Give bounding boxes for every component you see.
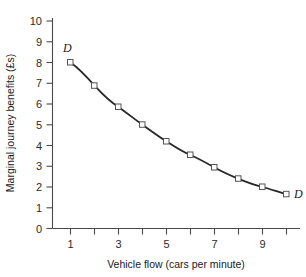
x-tick-label-1: 1: [67, 238, 73, 250]
chart-container: 10 9 8 7 6 5 4 3 2 1 0 1 3 5 7 9 Vehic: [0, 0, 306, 277]
x-tick-label-5: 5: [163, 238, 169, 250]
y-tick-label-0: 0: [36, 223, 42, 235]
y-tick-label-7: 7: [36, 77, 42, 89]
data-point-7: [212, 165, 218, 171]
y-tick-label-5: 5: [36, 119, 42, 131]
chart-background: [0, 0, 306, 277]
data-point-2: [92, 83, 98, 89]
data-point-1: [68, 60, 74, 66]
demand-curve-chart: 10 9 8 7 6 5 4 3 2 1 0 1 3 5 7 9 Vehic: [0, 0, 306, 277]
data-point-6: [188, 152, 194, 158]
y-tick-label-6: 6: [36, 98, 42, 110]
curve-label-d-start: D: [62, 41, 72, 55]
y-tick-label-4: 4: [36, 140, 42, 152]
x-tick-label-9: 9: [259, 238, 265, 250]
data-point-9: [260, 184, 266, 190]
y-tick-label-9: 9: [36, 36, 42, 48]
curve-label-d-end: D: [293, 187, 303, 201]
y-tick-label-2: 2: [36, 181, 42, 193]
y-tick-label-1: 1: [36, 202, 42, 214]
data-point-10: [284, 191, 290, 197]
data-point-8: [236, 176, 242, 182]
y-tick-label-8: 8: [36, 57, 42, 69]
data-point-3: [116, 104, 122, 110]
x-axis-title: Vehicle flow (cars per minute): [107, 258, 245, 270]
x-tick-label-3: 3: [115, 238, 121, 250]
y-tick-label-3: 3: [36, 160, 42, 172]
x-tick-label-7: 7: [211, 238, 217, 250]
y-tick-label-10: 10: [30, 15, 42, 27]
data-point-5: [164, 139, 170, 145]
data-point-4: [140, 122, 146, 128]
y-axis-title: Marginal journey benefits (£s): [4, 54, 16, 192]
